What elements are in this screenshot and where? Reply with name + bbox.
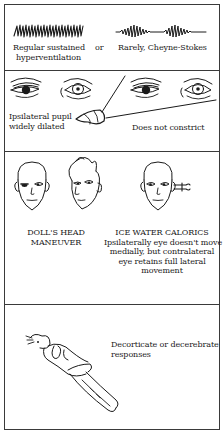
decorticate-decerebrate-label: Decorticate or decerebrate responses: [111, 340, 219, 359]
penlight-icon: [70, 76, 220, 126]
face-ice-water-syringe-icon: [138, 160, 194, 212]
or-connector: or: [95, 43, 103, 53]
face-front-icon: [12, 160, 52, 212]
does-not-constrict-label: Does not constrict: [132, 123, 204, 133]
regular-hyperventilation-label: Regular sustained hyperventilation: [13, 43, 85, 62]
dilated-pupil-eye-icon: [8, 76, 44, 100]
ice-water-calorics-title: ICE WATER CALORICS: [104, 228, 220, 238]
regular-hyperventilation-waveform-icon: [14, 24, 84, 38]
cheyne-stokes-waveform-icon: [116, 24, 214, 38]
panel-divider: [4, 304, 220, 305]
panel-divider: [4, 70, 220, 71]
panel-divider: [4, 151, 220, 152]
face-turned-icon: [62, 153, 106, 213]
dolls-head-label: DOLL'S HEAD MANEUVER: [12, 228, 100, 247]
ice-water-calorics-label: ICE WATER CALORICS Ipsilaterally eye doe…: [104, 228, 220, 276]
cheyne-stokes-label: Rarely, Cheyne-Stokes: [118, 43, 207, 53]
dilated-pupil-label: Ipsilateral pupil widely dilated: [9, 112, 72, 131]
